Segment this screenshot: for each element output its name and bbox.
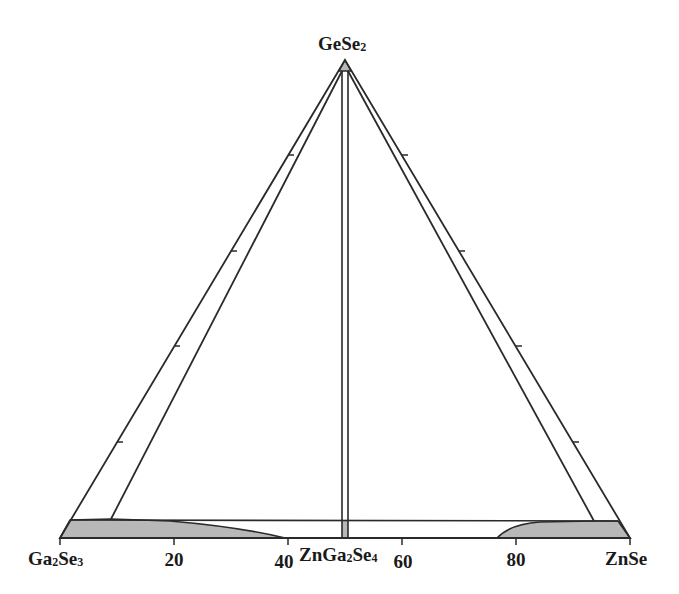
tie-line-right	[348, 71, 594, 521]
axis-tick-label-60: 60	[394, 552, 413, 571]
znse-solid-solution-region	[497, 521, 630, 538]
right-edge-ticks	[402, 155, 579, 442]
axis-tick-label-40: 40	[275, 552, 294, 571]
axis-tick-label-20: 20	[165, 550, 184, 569]
ternary-diagram	[0, 0, 679, 594]
vertex-label-znse: ZnSe	[605, 549, 647, 568]
axis-tick-label-80: 80	[507, 550, 526, 569]
compound-label-znga2se4: ZnGa2Se4	[299, 545, 378, 564]
tie-line-left	[111, 71, 342, 519]
vertex-label-ga2se3: Ga2Se3	[28, 549, 83, 568]
ga2se3-solid-solution-region	[60, 519, 285, 538]
solid-solution-boundary-line	[70, 520, 618, 521]
vertex-label-gese2: GeSe2	[318, 34, 366, 53]
znga2se4-homogeneity-region	[342, 520, 348, 538]
outer-triangle	[60, 60, 630, 538]
